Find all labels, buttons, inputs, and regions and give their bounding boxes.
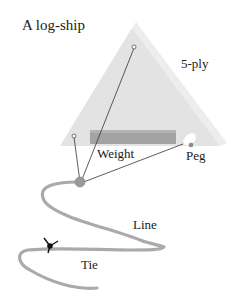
hole-top-icon [132,45,136,49]
weight-label: Weight [97,147,134,160]
peg-icon [189,143,194,148]
board-label: 5-ply [181,57,208,70]
tie-label: Tie [81,258,98,271]
rope-line [20,182,164,288]
diagram-title: A log-ship [22,18,85,33]
tie-marker-icon [44,238,58,253]
peg-label: Peg [186,149,206,162]
weight-bar-highlight [90,130,176,133]
board-face [60,28,220,146]
knot-icon [75,177,85,187]
line-label: Line [133,218,157,231]
hole-left-icon [72,134,76,138]
